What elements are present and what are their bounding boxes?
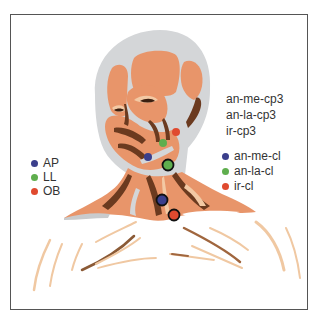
legend-item-ir-cl: ir-cl [222, 179, 281, 194]
dot-icon [31, 188, 38, 195]
legend-item-ll: LL [31, 170, 60, 184]
legend-label: AP [43, 156, 59, 170]
legend-item-ob: OB [31, 184, 60, 198]
legend-right: an-me-cl an-la-cl ir-cl [222, 149, 281, 194]
label-an-la-cp3: an-la-cp3 [226, 107, 283, 123]
dot-icon [222, 168, 229, 175]
legend-label: ir-cl [234, 179, 253, 194]
legend-label: an-la-cl [234, 164, 273, 179]
legend-left: AP LL OB [31, 156, 60, 198]
marker-an-me-cl [157, 195, 168, 206]
cp3-label-group: an-me-cp3 an-la-cp3 ir-cp3 [226, 91, 283, 139]
chest-strokes [34, 222, 300, 290]
marker-ir-cl [169, 210, 180, 221]
dot-icon [31, 174, 38, 181]
legend-item-an-la-cl: an-la-cl [222, 164, 281, 179]
marker-ob-face [172, 128, 180, 136]
legend-label: an-me-cl [234, 149, 281, 164]
label-ir-cp3: ir-cp3 [226, 123, 283, 139]
marker-ll-face [159, 139, 167, 147]
marker-an-la-cl [163, 160, 174, 171]
dot-icon [222, 183, 229, 190]
label-an-me-cp3: an-me-cp3 [226, 91, 283, 107]
legend-item-ap: AP [31, 156, 60, 170]
dot-icon [31, 160, 38, 167]
dot-icon [222, 153, 229, 160]
marker-ap-face [144, 153, 152, 161]
legend-label: OB [43, 184, 60, 198]
legend-item-an-me-cl: an-me-cl [222, 149, 281, 164]
legend-label: LL [43, 170, 56, 184]
